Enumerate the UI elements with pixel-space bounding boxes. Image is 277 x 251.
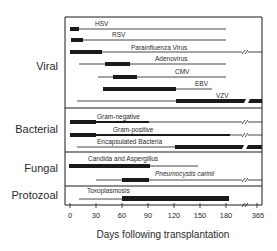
x-tick-30: 30	[92, 211, 100, 220]
row-label-gram-negative: Gram-negative	[97, 113, 140, 121]
row-label-candida: Candida and Aspergillus	[88, 155, 159, 163]
group-label-protozoal: Protozoal	[12, 189, 58, 201]
row-hsv: HSV	[70, 20, 226, 31]
x-tick-180: 180	[220, 211, 233, 220]
row-label-parainfluenza: Parainfluenza Virus	[131, 44, 188, 51]
axis-break-icon	[242, 178, 248, 182]
row-label-toxoplasmosis: Toxoplasmosis	[87, 187, 130, 195]
row-label-adenovirus: Adenovirus	[155, 55, 188, 62]
axis-break-icon	[242, 133, 248, 137]
group-label-fungal: Fungal	[24, 162, 58, 174]
row-toxoplasmosis: Toxoplasmosis	[79, 187, 229, 201]
group-label-bacterial: Bacterial	[15, 123, 58, 135]
x-tick-90: 90	[144, 211, 152, 220]
row-cmv: CMV	[98, 68, 226, 79]
row-label-rsv: RSV	[112, 31, 126, 38]
row-label-cmv: CMV	[175, 68, 190, 75]
row-label-ebv: EBV	[195, 80, 209, 87]
row-label-encapsulated: Encapsulated Bacteria	[97, 138, 162, 146]
x-tick-150: 150	[194, 211, 207, 220]
x-tick-365: 365	[252, 211, 265, 220]
row-pneumocystis: Pneumocystis carinii	[96, 170, 262, 182]
row-ebv: EBV	[103, 80, 212, 91]
row-vzv: VZV	[77, 92, 262, 103]
row-label-hsv: HSV	[95, 20, 109, 27]
x-tick-0: 0	[68, 211, 72, 220]
x-axis-label: Days following transplantation	[97, 229, 230, 240]
infection-timeline-chart: Viral Bacterial Fungal Protozoal HSV RSV…	[0, 0, 277, 251]
group-label-viral: Viral	[36, 60, 58, 72]
row-label-gram-positive: Gram-positive	[113, 126, 154, 134]
row-rsv: RSV	[71, 31, 226, 42]
row-adenovirus: Adenovirus	[79, 55, 226, 66]
row-candida-aspergillus: Candida and Aspergillus	[69, 155, 198, 168]
row-label-vzv: VZV	[216, 92, 229, 99]
row-label-pneumocystis: Pneumocystis carinii	[155, 170, 215, 178]
row-encapsulated-bacteria: Encapsulated Bacteria	[77, 138, 262, 149]
x-tick-labels: 0 30 60 90 120 150 180 365	[68, 211, 264, 220]
axis-break-icon	[242, 120, 248, 124]
x-tick-120: 120	[168, 211, 181, 220]
row-parainfluenza: Parainfluenza Virus	[70, 44, 262, 54]
x-tick-60: 60	[118, 211, 126, 220]
row-gram-positive: Gram-positive	[70, 126, 262, 137]
axis-break-icon	[242, 50, 248, 54]
row-gram-negative: Gram-negative	[70, 113, 262, 124]
